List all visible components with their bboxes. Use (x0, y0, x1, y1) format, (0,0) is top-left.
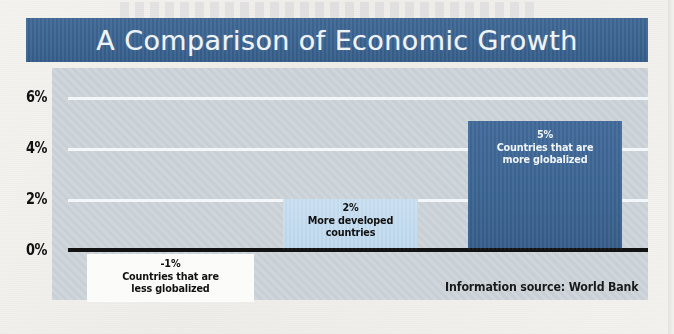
y-axis-tick-2: 2% (26, 190, 62, 208)
bar-category-line2-less-globalized: less globalized (97, 283, 244, 296)
y-axis-tick-4: 4% (26, 139, 62, 157)
gridline-6 (68, 97, 648, 100)
bar-value-less-globalized: -1% (97, 258, 244, 271)
bar-category-line2-more-globalized: more globalized (477, 154, 613, 167)
bar-countries-less-globalized[interactable]: -1% Countries that are less globalized (87, 254, 254, 302)
plot-area: 6% 4% 2% 0% 5% Countries that are more g… (26, 68, 648, 300)
source-note: Information source: World Bank (445, 279, 638, 294)
bar-category-line2-more-developed: countries (291, 227, 410, 240)
bleed-through-text-artifact (120, 2, 540, 18)
chart-title-band: A Comparison of Economic Growth (26, 18, 648, 62)
bar-label-more-globalized: 5% Countries that are more globalized (477, 129, 613, 167)
bar-label-more-developed: 2% More developed countries (291, 202, 410, 240)
scanned-page-background: A Comparison of Economic Growth 6% 4% 2%… (0, 0, 674, 334)
bar-countries-more-globalized[interactable]: 5% Countries that are more globalized (468, 121, 622, 250)
page-edge-rule (668, 0, 674, 334)
chart-figure: A Comparison of Economic Growth 6% 4% 2%… (26, 18, 648, 300)
bar-value-more-developed: 2% (291, 202, 410, 215)
bar-value-more-globalized: 5% (477, 129, 613, 142)
chart-title: A Comparison of Economic Growth (96, 25, 577, 56)
y-axis-tick-6: 6% (26, 88, 62, 106)
y-axis-tick-0: 0% (26, 241, 62, 259)
bar-more-developed-countries[interactable]: 2% More developed countries (283, 199, 418, 250)
bar-label-less-globalized: -1% Countries that are less globalized (97, 258, 244, 296)
